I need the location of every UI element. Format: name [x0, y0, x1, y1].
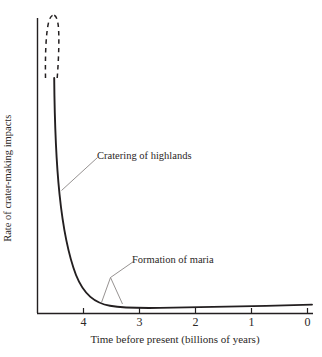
x-tick-label-1: 1	[240, 316, 264, 328]
annotation-cratering-of-highlands: Cratering of highlands	[97, 151, 191, 162]
crater-rate-chart: Rate of crater-making impacts Time befor…	[0, 0, 322, 357]
maria-fork-left	[102, 278, 111, 303]
impact-rate-curve	[54, 78, 312, 308]
x-tick-label-0: 0	[296, 316, 320, 328]
dashed-peak-right-leg	[54, 15, 59, 78]
dashed-peak-curve	[45, 15, 58, 78]
x-tick-label-4: 4	[72, 316, 96, 328]
maria-leader-segment	[111, 262, 134, 278]
chart-plot-area	[0, 0, 322, 357]
highlands-leader-segment	[62, 158, 98, 191]
maria-fork-right	[111, 278, 123, 305]
highlands-leader-line	[62, 158, 98, 191]
dashed-peak-left-leg	[45, 15, 54, 78]
x-tick-label-3: 3	[128, 316, 152, 328]
x-tick-label-2: 2	[184, 316, 208, 328]
y-axis-label-text: Rate of crater-making impacts	[4, 115, 15, 242]
maria-leader-line	[102, 262, 134, 305]
x-axis-ticks	[84, 308, 308, 313]
y-axis-label: Rate of crater-making impacts	[0, 0, 18, 357]
annotation-formation-of-maria: Formation of maria	[132, 255, 214, 266]
axis-lines	[37, 18, 313, 314]
x-axis-label: Time before present (billions of years)	[37, 334, 313, 345]
